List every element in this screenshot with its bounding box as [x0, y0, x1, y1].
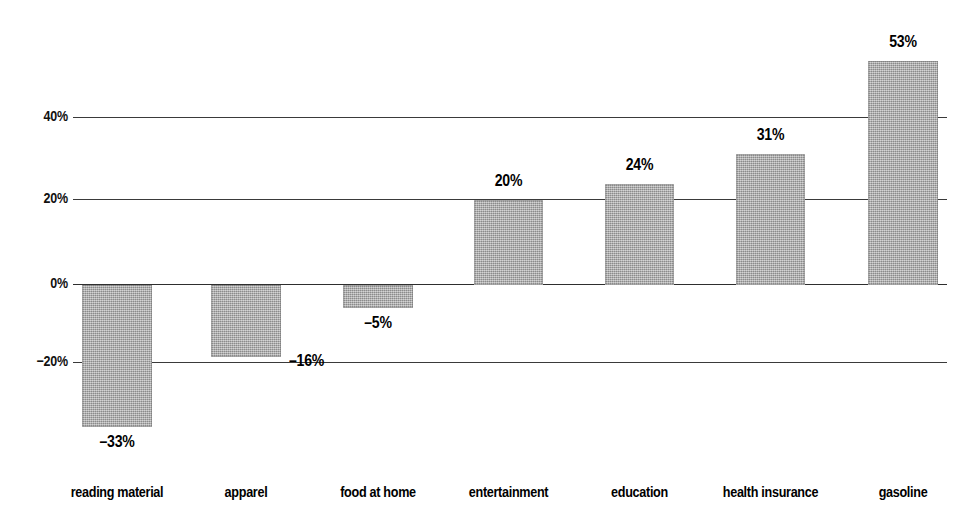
category-label: health insurance: [718, 484, 823, 500]
bar-value-label: 20%: [478, 172, 539, 190]
bar-chart: 40%20%0%−20% –33%–16%–5%20%24%31%53% rea…: [0, 0, 967, 530]
bar[interactable]: [868, 61, 938, 285]
bar[interactable]: [736, 154, 805, 285]
y-axis-tick-label: 40%: [10, 108, 68, 124]
category-label: entertainment: [456, 484, 561, 500]
bar[interactable]: [82, 285, 152, 427]
bar[interactable]: [343, 285, 413, 308]
bar-value-label: –33%: [86, 433, 148, 451]
bar-value-label: 31%: [740, 126, 801, 144]
y-axis-tick-label: −20%: [10, 353, 68, 369]
category-label: food at home: [325, 484, 431, 500]
gridline-40: [73, 117, 947, 118]
bar-value-label: –16%: [289, 352, 324, 370]
category-label: reading material: [64, 484, 170, 500]
bar[interactable]: [605, 184, 674, 285]
y-axis-tick-label: 0%: [10, 275, 68, 291]
category-label: apparel: [193, 484, 299, 500]
y-axis-tick-label: 20%: [10, 190, 68, 206]
bar-value-label: 53%: [872, 33, 934, 51]
bar[interactable]: [474, 200, 543, 285]
category-label: gasoline: [850, 484, 956, 500]
category-label: education: [587, 484, 692, 500]
gridline-neg20: [73, 362, 947, 363]
bar-value-label: –5%: [347, 314, 409, 332]
bar-value-label: 24%: [609, 156, 670, 174]
bar[interactable]: [211, 285, 281, 357]
